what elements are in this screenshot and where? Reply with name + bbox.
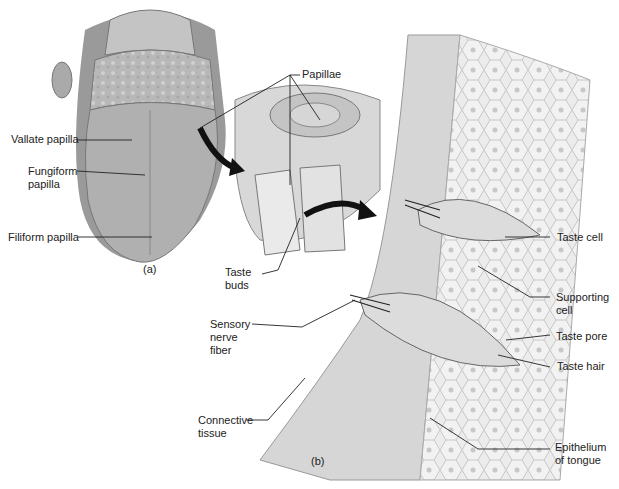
label-taste-pore: Taste pore xyxy=(556,330,607,343)
label-sensory-nerve-fiber: Sensory nerve fiber xyxy=(210,318,250,357)
label-taste-buds: Taste buds xyxy=(225,266,251,292)
label-vallate-papilla: Vallate papilla xyxy=(11,133,79,146)
label-supporting-cell: Supporting cell xyxy=(556,291,609,317)
label-epithelium-of-tongue: Epithelium of tongue xyxy=(555,441,606,467)
label-connective-tissue: Connective tissue xyxy=(198,414,253,440)
label-taste-hair: Taste hair xyxy=(557,360,605,373)
papillae-closeup xyxy=(235,85,380,255)
label-taste-cell: Taste cell xyxy=(557,231,603,244)
label-fungiform-papilla: Fungiform papilla xyxy=(28,165,78,191)
caption-b: (b) xyxy=(311,455,324,468)
label-filiform-papilla: Filiform papilla xyxy=(8,231,79,244)
label-papillae: Papillae xyxy=(302,68,341,81)
caption-a: (a) xyxy=(143,263,156,276)
